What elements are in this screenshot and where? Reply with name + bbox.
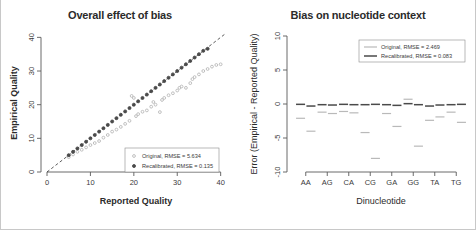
x-axis-title: Reported Quality bbox=[100, 196, 173, 206]
data-point bbox=[152, 101, 155, 104]
y-tick-label: -10 bbox=[273, 167, 282, 178]
y-tick-label: -5 bbox=[273, 135, 282, 142]
x-axis-title: Dinucleotide bbox=[356, 196, 406, 206]
data-point bbox=[185, 86, 188, 89]
y-tick-label: 20 bbox=[27, 101, 36, 109]
figure-container: Overall effect of bias 01020304001020304… bbox=[0, 0, 476, 230]
data-point bbox=[128, 119, 131, 122]
y-tick-label: 0 bbox=[273, 102, 282, 106]
x-tick-label: AA bbox=[301, 178, 311, 187]
y-tick-label: 40 bbox=[27, 33, 36, 41]
data-point bbox=[115, 117, 118, 120]
legend-label: Recalibrated, RMSE = 0.135 bbox=[142, 163, 213, 169]
data-point bbox=[106, 123, 109, 126]
data-point bbox=[197, 53, 200, 56]
data-point bbox=[93, 133, 96, 136]
data-point bbox=[163, 80, 166, 83]
y-tick-label: 0 bbox=[27, 170, 36, 174]
data-point bbox=[145, 109, 148, 112]
data-point bbox=[158, 111, 161, 114]
x-tick-label: TG bbox=[451, 178, 462, 187]
data-point bbox=[163, 97, 166, 100]
data-point bbox=[102, 127, 105, 130]
data-point bbox=[102, 136, 105, 139]
data-point bbox=[158, 83, 161, 86]
data-point bbox=[137, 100, 140, 103]
x-tick-label: CG bbox=[365, 178, 376, 187]
data-point bbox=[132, 97, 135, 100]
data-point bbox=[198, 73, 201, 76]
data-point bbox=[93, 142, 96, 145]
data-point bbox=[176, 70, 179, 73]
data-point bbox=[206, 47, 209, 50]
y-tick-label: 30 bbox=[27, 67, 36, 75]
legend-label: Original, RMSE = 2.469 bbox=[381, 44, 440, 50]
data-point bbox=[128, 107, 131, 110]
x-tick-label: GG bbox=[407, 178, 419, 187]
data-point bbox=[167, 76, 170, 79]
data-point bbox=[193, 76, 196, 79]
data-point bbox=[184, 63, 187, 66]
data-point bbox=[150, 105, 153, 108]
x-tick-label: 20 bbox=[130, 178, 138, 187]
x-tick-label: 10 bbox=[86, 178, 94, 187]
data-point bbox=[137, 113, 140, 116]
data-point bbox=[115, 128, 118, 131]
scatter-plot-nucleotide-bias: AAAGCACGGAGGTATG-10-50510DinucleotideErr… bbox=[239, 0, 476, 213]
series-recalibrated bbox=[296, 104, 466, 106]
data-point bbox=[76, 150, 79, 153]
data-point bbox=[202, 49, 205, 52]
data-point bbox=[89, 144, 92, 147]
data-point bbox=[141, 96, 144, 99]
data-point bbox=[211, 65, 214, 68]
y-tick-label: 10 bbox=[273, 32, 282, 40]
data-point bbox=[176, 89, 179, 92]
data-point bbox=[189, 59, 192, 62]
data-point bbox=[180, 85, 183, 88]
data-point bbox=[154, 86, 157, 89]
panel-bias-on-nucleotide-context: Bias on nucleotide context AAAGCACGGAGGT… bbox=[239, 0, 476, 213]
data-point bbox=[189, 82, 192, 85]
y-axis-title: Empirical Quality bbox=[9, 66, 19, 140]
data-point bbox=[193, 56, 196, 59]
data-point bbox=[180, 66, 183, 69]
data-point bbox=[119, 125, 122, 128]
x-tick-label: 40 bbox=[216, 178, 224, 187]
data-point bbox=[172, 92, 175, 95]
series-recalibrated bbox=[67, 47, 209, 156]
data-point bbox=[80, 144, 83, 147]
x-tick-label: CA bbox=[344, 178, 354, 187]
data-point bbox=[171, 73, 174, 76]
data-point bbox=[106, 134, 109, 137]
data-point bbox=[132, 103, 135, 106]
x-tick-label: GA bbox=[386, 178, 397, 187]
data-point bbox=[124, 122, 127, 125]
series-original bbox=[296, 99, 466, 158]
data-point bbox=[167, 94, 170, 97]
y-tick-label: 10 bbox=[27, 134, 36, 142]
data-point bbox=[85, 140, 88, 143]
x-tick-label: 30 bbox=[173, 178, 181, 187]
data-point bbox=[206, 68, 209, 71]
data-point bbox=[219, 63, 222, 66]
data-point bbox=[111, 120, 114, 123]
data-point bbox=[124, 110, 127, 113]
data-point bbox=[145, 93, 148, 96]
data-point bbox=[98, 130, 101, 133]
x-tick-label: TA bbox=[430, 178, 439, 187]
data-point bbox=[76, 147, 79, 150]
data-point bbox=[119, 113, 122, 116]
x-tick-label: AG bbox=[322, 178, 333, 187]
data-point bbox=[141, 110, 144, 113]
data-point bbox=[111, 130, 114, 133]
data-point bbox=[67, 154, 70, 157]
data-point bbox=[202, 70, 205, 73]
legend-marker bbox=[133, 165, 136, 168]
data-point bbox=[85, 146, 88, 149]
scatter-plot-overall-effect: 010203040010203040Reported QualityEmpiri… bbox=[1, 0, 239, 213]
data-point bbox=[80, 148, 83, 151]
data-point bbox=[89, 137, 92, 140]
data-point bbox=[98, 140, 101, 143]
data-point bbox=[215, 64, 218, 67]
data-point bbox=[72, 150, 75, 153]
